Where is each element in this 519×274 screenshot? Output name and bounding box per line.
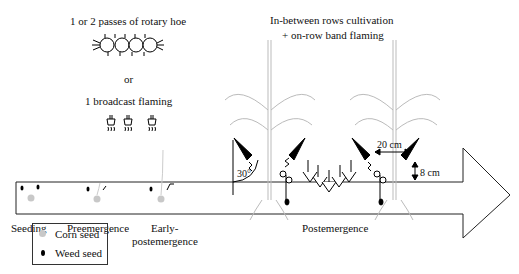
cultivation-label-line1: In-between rows cultivation bbox=[270, 14, 393, 27]
weed-seed-swatch bbox=[41, 250, 45, 256]
broadcast-flaming-label: 1 broadcast flaming bbox=[85, 95, 172, 108]
stage-early-postemergence-1: Early- bbox=[151, 222, 178, 235]
corn-seed-swatch bbox=[39, 230, 46, 237]
legend-item-corn-seed: Corn seed bbox=[33, 224, 107, 243]
cultivation-label-line2: + on-row band flaming bbox=[282, 29, 384, 42]
legend-item-weed-seed: Weed seed bbox=[33, 243, 107, 262]
legend-label-corn: Corn seed bbox=[55, 228, 99, 240]
angle-label: 30° bbox=[237, 167, 251, 180]
height-arrow bbox=[412, 162, 418, 180]
stage-early-postemergence-2: postemergence bbox=[132, 235, 198, 248]
or-label: or bbox=[124, 73, 133, 86]
rotary-hoe-icon bbox=[92, 34, 164, 56]
stage-postemergence: Postemergence bbox=[302, 222, 368, 235]
legend: Corn seed Weed seed bbox=[32, 223, 108, 265]
legend-label-weed: Weed seed bbox=[55, 247, 102, 259]
rotary-hoe-label: 1 or 2 passes of rotary hoe bbox=[70, 15, 186, 28]
spacing-label: 20 cm bbox=[377, 138, 402, 151]
broadcast-flamer-icon bbox=[107, 115, 156, 131]
height-label: 8 cm bbox=[420, 166, 440, 179]
